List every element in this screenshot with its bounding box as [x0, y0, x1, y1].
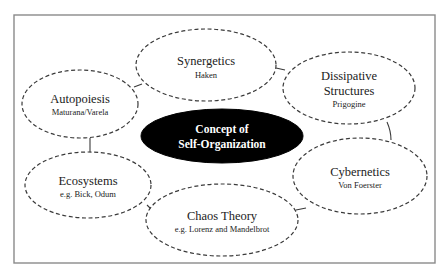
node-cybernetics: Cybernetics Von Foerster: [293, 138, 427, 214]
node-dissipative-structures: Dissipative Structures Prigogine: [283, 52, 415, 124]
node-chaos-theory: Chaos Theory e.g. Lorenz and Mandelbrot: [146, 184, 298, 256]
node-chaos-title: Chaos Theory: [187, 209, 258, 223]
node-autopoiesis-subtitle: Maturana/Varela: [52, 107, 109, 117]
node-ecosystems-title: Ecosystems: [58, 174, 117, 188]
center-concept-line2: Self-Organization: [178, 138, 266, 151]
node-chaos-subtitle: e.g. Lorenz and Mandelbrot: [175, 224, 270, 234]
node-synergetics-title: Synergetics: [177, 54, 235, 68]
node-synergetics: Synergetics Haken: [136, 29, 276, 101]
node-dissipative-subtitle: Prigogine: [332, 99, 365, 109]
node-ecosystems: Ecosystems e.g. Bick, Odum: [25, 152, 151, 218]
node-autopoiesis-title: Autopoiesis: [50, 92, 110, 106]
self-organization-diagram: Synergetics Haken Dissipative Structures…: [0, 0, 448, 276]
node-cybernetics-title: Cybernetics: [330, 165, 390, 179]
center-concept-line1: Concept of: [195, 123, 249, 136]
node-synergetics-subtitle: Haken: [195, 70, 218, 80]
node-ecosystems-subtitle: e.g. Bick, Odum: [60, 189, 116, 199]
center-concept-ellipse: [141, 109, 303, 163]
node-dissipative-title-line2: Structures: [324, 84, 375, 98]
center-concept: Concept of Self-Organization: [141, 109, 303, 163]
node-dissipative-title-line1: Dissipative: [321, 69, 378, 83]
node-cybernetics-subtitle: Von Foerster: [338, 180, 382, 190]
node-autopoiesis: Autopoiesis Maturana/Varela: [22, 70, 138, 138]
